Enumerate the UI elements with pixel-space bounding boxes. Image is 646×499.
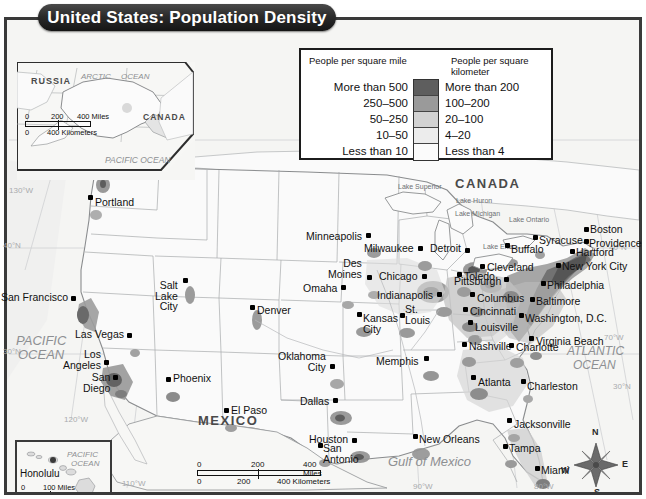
city-dot [166,377,171,382]
legend-swatch-0 [414,80,438,96]
ocean-label-1: OCEAN [18,348,64,361]
scale-km-1: 200 [237,477,250,486]
city-label: LosAngeles [63,349,101,370]
city-label: Las Vegas [75,329,124,340]
inset-label-russia: RUSSIA [31,76,71,86]
city-label: Louisville [475,322,518,333]
legend-swatch-4 [414,144,438,160]
compass-north: N [592,427,599,437]
city-label: Charleston [527,381,578,392]
scale-mi-1: 200 [251,460,264,469]
inset-label-arctic: ARCTIC [81,70,111,83]
city-label: Detroit [430,243,461,254]
hi-label-honolulu: Honolulu [20,468,59,479]
city-label: Columbus [477,293,524,304]
legend-mile-0: More than 500 [309,79,413,95]
city-label: Cleveland [487,262,534,273]
city-label: Providence [589,238,642,249]
city-label: Atlanta [478,377,511,388]
main-scale-bar: 0 200 400 Miles 0 200 400 Kilometers [197,460,337,487]
lake-label-0: Lake Superior [398,183,442,190]
city-dot [318,443,323,448]
alaska-inset: RUSSIA ARCTIC OCEAN CANADA PACIFIC OCEAN… [17,62,195,180]
city-dot [519,313,524,318]
legend-km-1: 100–200 [445,95,543,111]
compass-south: S [594,487,600,495]
city-dot [341,285,346,290]
city-label: OklahomaCity [278,351,326,372]
city-label: Cincinnati [470,306,516,317]
city-dot [533,235,538,240]
inset-label-pacific-ocean: PACIFIC OCEAN [105,154,171,167]
lake-label-3: Lake Ontario [509,216,549,223]
graticule-label-6: 80°W [534,482,554,491]
city-label: Syracuse [539,235,583,246]
city-dot [471,375,476,380]
city-dot [505,243,510,248]
legend-swatch-2 [414,112,438,128]
legend-mile-4: Less than 10 [309,143,413,159]
graticule-label-4: 110°W [122,479,146,488]
city-label: Memphis [376,356,419,367]
city-label: DesMoines [328,258,362,279]
city-dot [183,278,188,283]
city-label: San Francisco [1,292,68,303]
city-dot [509,343,514,348]
lake-label-1: Lake Michigan [455,210,500,217]
city-label: Chicago [379,271,418,282]
city-dot [367,275,372,280]
legend-heading-km: People per square kilometer [431,55,543,77]
city-label: Phoenix [173,373,211,384]
city-label: Portland [95,197,134,208]
hi-mi-0: 0 [21,483,25,492]
city-dot [352,438,357,443]
city-label: Baltimore [536,296,580,307]
inset-label-canada: CANADA [143,112,186,122]
projection-note: Albers Equal-Area Projection [197,494,300,495]
legend-labels-km: More than 200 100–200 20–100 4–20 Less t… [439,79,543,161]
legend-swatch-3 [414,128,438,144]
city-dot [71,296,76,301]
city-dot [584,239,589,244]
city-dot [113,375,118,380]
city-dot [104,360,109,365]
city-dot [250,305,255,310]
city-dot [503,444,508,449]
city-label: Washington, D.C. [525,313,607,324]
graticule-label-0: 130°W [9,186,33,195]
city-dot [504,277,509,282]
alaska-scale-bar: 0200400 Miles 0400 Kilometers [25,112,111,137]
city-label: SaltLakeCity [155,280,178,312]
legend-mile-1: 250–500 [309,95,413,111]
map-page: RUSSIA ARCTIC OCEAN CANADA PACIFIC OCEAN… [0,0,646,499]
city-dot [457,272,462,277]
hawaii-inset: PACIFIC OCEAN Honolulu 0100 Miles 0100 K… [15,440,112,495]
country-label-canada: CANADA [455,176,520,191]
city-label: St.Louis [405,304,430,325]
graticule-label-5: 90°W [413,482,433,491]
city-dot [463,307,468,312]
city-dot [507,418,512,423]
scale-mi-0: 0 [197,460,201,469]
city-dot [88,195,93,200]
city-dot [465,248,470,253]
legend-swatch-1 [414,96,438,112]
graticule-label-8: 70°W [604,333,624,342]
city-label: SanDiego [83,372,110,393]
ocean-label-0: PACIFIC [16,334,66,347]
city-dot [422,274,427,279]
city-label: Milwaukee [364,243,414,254]
legend-km-2: 20–100 [445,111,543,127]
graticule-label-1: 40°N [3,241,21,250]
city-dot [400,313,405,318]
legend-heading-miles: People per square mile [309,55,431,77]
city-dot [535,466,540,471]
legend-swatch-column [413,79,439,161]
city-dot [437,292,442,297]
city-label: Tampa [509,443,541,454]
legend-km-4: Less than 4 [445,143,543,159]
lake-label-2: Lake Huron [456,197,492,204]
city-label: Dallas [300,396,329,407]
legend-labels-miles: More than 500 250–500 50–250 10–50 Less … [309,79,413,161]
legend-mile-2: 50–250 [309,111,413,127]
